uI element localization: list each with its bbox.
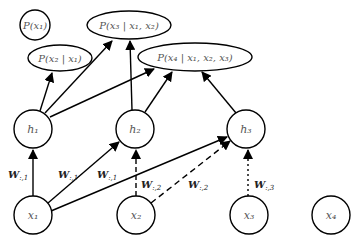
node-h2-label: h₂ xyxy=(129,123,141,136)
node-p1-label: P(x₁) xyxy=(22,20,47,31)
node-p4-label: P(x₄ | x₁, x₂, x₃) xyxy=(156,52,233,64)
edge-h1-p2 xyxy=(40,73,52,111)
node-x4-label: x₄ xyxy=(326,209,337,222)
node-h3: h₃ xyxy=(227,110,265,148)
node-x2-label: x₂ xyxy=(131,209,142,222)
label-x2-h2: W:,2 xyxy=(141,179,162,192)
edge-x2-h3 xyxy=(151,141,230,203)
label-x1-h2: W:,1 xyxy=(58,169,78,182)
label-x1-h1: W:,1 xyxy=(8,169,28,182)
node-p3-label: P(x₃ | x₁, x₂) xyxy=(98,20,159,32)
edge-h2-p3 xyxy=(130,41,132,110)
label-x1-h3: W:,1 xyxy=(97,169,117,182)
node-x1: x₁ xyxy=(14,196,52,234)
node-x1-label: x₁ xyxy=(28,209,39,222)
node-x4: x₄ xyxy=(312,196,350,234)
node-h1: h₁ xyxy=(14,110,52,148)
label-x3-h3: W:,3 xyxy=(254,179,275,192)
edge-h2-p4 xyxy=(145,72,172,112)
node-h2: h₂ xyxy=(116,110,154,148)
node-h1-label: h₁ xyxy=(27,123,39,136)
edge-h3-p4 xyxy=(202,72,236,113)
node-p4: P(x₄ | x₁, x₂, x₃) xyxy=(138,43,252,71)
node-h3-label: h₃ xyxy=(240,123,252,136)
node-p1: P(x₁) xyxy=(20,10,50,40)
input-nodes: x₁ x₂ x₃ x₄ xyxy=(14,196,350,234)
node-p3: P(x₃ | x₁, x₂) xyxy=(87,11,171,39)
diagram-canvas: P(x₁) P(x₃ | x₁, x₂) P(x₂ | x₁) P(x₄ | x… xyxy=(0,0,357,244)
nade-graph: P(x₁) P(x₃ | x₁, x₂) P(x₂ | x₁) P(x₄ | x… xyxy=(0,0,357,244)
node-x3-label: x₃ xyxy=(244,209,255,222)
output-nodes: P(x₁) P(x₃ | x₁, x₂) P(x₂ | x₁) P(x₄ | x… xyxy=(20,10,252,71)
node-p2-label: P(x₂ | x₁) xyxy=(37,53,82,65)
node-x2: x₂ xyxy=(117,196,155,234)
node-x3: x₃ xyxy=(230,196,268,234)
label-x2-h3: W:,2 xyxy=(188,179,209,192)
node-p2: P(x₂ | x₁) xyxy=(28,45,92,71)
